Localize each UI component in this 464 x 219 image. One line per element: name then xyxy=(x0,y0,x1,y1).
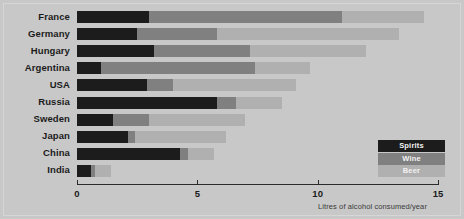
bar-segment-japan-wine xyxy=(128,131,135,143)
bar-segment-usa-spirits xyxy=(77,79,147,91)
bar-usa xyxy=(77,79,438,91)
bar-segment-argentina-spirits xyxy=(77,62,101,74)
bar-segment-japan-spirits xyxy=(77,131,128,143)
bar-segment-france-beer xyxy=(342,11,424,23)
legend-item-beer[interactable]: Beer xyxy=(378,165,445,177)
bar-segment-china-wine xyxy=(180,148,187,160)
bar-segment-sweden-spirits xyxy=(77,114,113,126)
bar-segment-india-beer xyxy=(95,165,111,177)
bar-segment-china-beer xyxy=(188,148,214,160)
x-axis-title: Litres of alcohol consumed/year xyxy=(318,202,427,211)
bar-segment-usa-beer xyxy=(173,79,296,91)
bar-segment-russia-wine xyxy=(217,97,236,109)
category-label-russia: Russia xyxy=(0,96,70,108)
x-axis-tick-label-5: 5 xyxy=(182,188,212,199)
bar-segment-argentina-wine xyxy=(101,62,255,74)
x-axis-line xyxy=(77,184,439,185)
bar-segment-hungary-beer xyxy=(250,45,366,57)
category-label-hungary: Hungary xyxy=(0,45,70,57)
bar-segment-hungary-spirits xyxy=(77,45,154,57)
bar-segment-india-spirits xyxy=(77,165,91,177)
legend-item-wine[interactable]: Wine xyxy=(378,153,445,165)
bar-segment-germany-wine xyxy=(137,28,216,40)
x-axis-tick-0 xyxy=(77,180,78,184)
category-label-france: France xyxy=(0,11,70,23)
bar-segment-russia-spirits xyxy=(77,97,217,109)
category-label-germany: Germany xyxy=(0,28,70,40)
category-label-india: India xyxy=(0,164,70,176)
category-label-usa: USA xyxy=(0,79,70,91)
bar-argentina xyxy=(77,62,438,74)
category-label-sweden: Sweden xyxy=(0,113,70,125)
bar-germany xyxy=(77,28,438,40)
bar-segment-france-spirits xyxy=(77,11,149,23)
x-axis-tick-label-10: 10 xyxy=(303,188,333,199)
x-axis-tick-5 xyxy=(197,180,198,184)
alcohol-consumption-chart: FranceGermanyHungaryArgentinaUSARussiaSw… xyxy=(0,0,464,219)
bar-segment-france-wine xyxy=(149,11,342,23)
bar-segment-argentina-beer xyxy=(255,62,310,74)
x-axis-tick-label-0: 0 xyxy=(62,188,92,199)
chart-legend: SpiritsWineBeer xyxy=(378,140,445,177)
category-label-japan: Japan xyxy=(0,130,70,142)
bar-france xyxy=(77,11,438,23)
bar-segment-sweden-wine xyxy=(113,114,149,126)
bar-segment-germany-spirits xyxy=(77,28,137,40)
category-label-china: China xyxy=(0,147,70,159)
bar-russia xyxy=(77,97,438,109)
bar-hungary xyxy=(77,45,438,57)
bar-segment-sweden-beer xyxy=(149,114,245,126)
bar-segment-germany-beer xyxy=(217,28,400,40)
bar-sweden xyxy=(77,114,438,126)
bar-segment-russia-beer xyxy=(236,97,282,109)
x-axis-tick-10 xyxy=(318,180,319,184)
bar-segment-china-spirits xyxy=(77,148,180,160)
x-axis-tick-15 xyxy=(438,180,439,184)
plot-area: FranceGermanyHungaryArgentinaUSARussiaSw… xyxy=(0,0,464,219)
category-label-argentina: Argentina xyxy=(0,62,70,74)
bar-segment-usa-wine xyxy=(147,79,173,91)
bar-segment-japan-beer xyxy=(135,131,226,143)
bar-segment-hungary-wine xyxy=(154,45,250,57)
x-axis-tick-label-15: 15 xyxy=(423,188,453,199)
legend-item-spirits[interactable]: Spirits xyxy=(378,140,445,152)
